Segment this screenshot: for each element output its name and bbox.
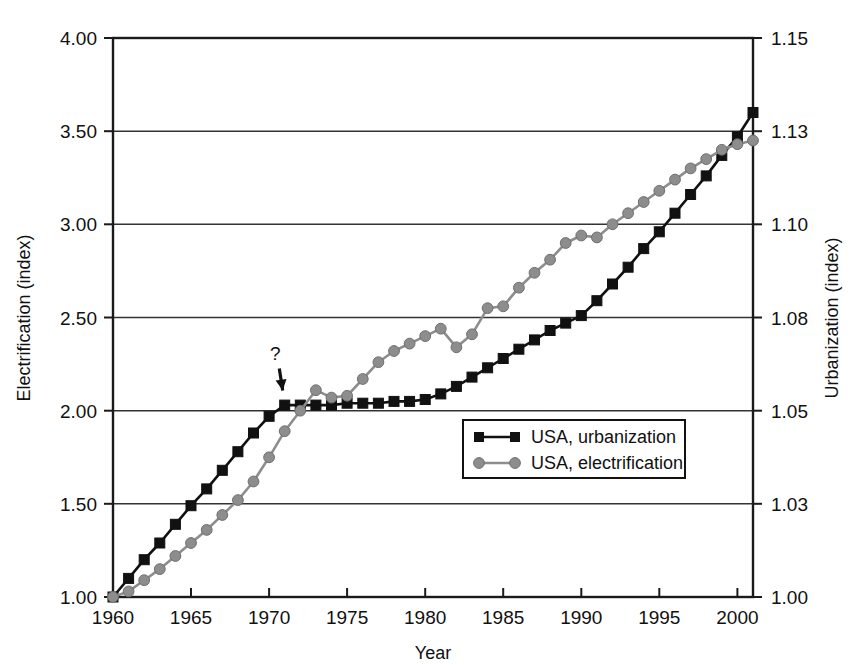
chart-figure: 1960196519701975198019851990199520001.00… [0, 0, 855, 665]
x-tick-label: 1985 [482, 607, 524, 628]
data-point-marker [420, 331, 431, 342]
data-point-marker [357, 374, 368, 385]
annotation-label: ? [270, 343, 281, 364]
data-point-marker [154, 564, 165, 575]
data-point-marker [607, 219, 618, 230]
y-tick-label: 3.00 [60, 214, 97, 235]
data-point-marker [139, 555, 149, 565]
data-point-marker [436, 389, 446, 399]
y2-tick-label: 1.13 [771, 121, 808, 142]
data-point-marker [155, 538, 165, 548]
data-point-marker [311, 400, 321, 410]
data-point-marker [498, 301, 509, 312]
legend-item-label: USA, urbanization [531, 427, 676, 447]
y2-tick-label: 1.03 [771, 494, 808, 515]
data-point-marker [420, 395, 430, 405]
data-point-marker [701, 154, 712, 165]
x-tick-label: 1980 [404, 607, 446, 628]
y-axis-left: 1.001.502.002.503.003.504.00 [60, 28, 113, 608]
data-point-marker [389, 346, 400, 357]
y2-tick-label: 1.15 [771, 28, 808, 49]
data-point-marker [342, 390, 353, 401]
x-tick-label: 1960 [92, 607, 134, 628]
data-point-marker [514, 344, 524, 354]
data-point-marker [451, 342, 462, 353]
data-point-marker [638, 197, 649, 208]
data-point-marker [654, 227, 664, 237]
legend-item-label: USA, electrification [531, 453, 683, 473]
data-point-marker [123, 586, 134, 597]
data-point-marker [483, 363, 493, 373]
data-point-marker [592, 232, 603, 243]
data-point-marker [202, 484, 212, 494]
line-chart: 1960196519701975198019851990199520001.00… [0, 0, 855, 665]
data-point-marker [373, 357, 384, 368]
y2-tick-label: 1.05 [771, 401, 808, 422]
y2-axis-title: Urbanization (index) [822, 237, 842, 398]
x-axis-title: Year [415, 643, 451, 663]
data-point-marker [514, 282, 525, 293]
data-point-marker [451, 381, 461, 391]
data-point-marker [654, 185, 665, 196]
data-point-marker [217, 510, 228, 521]
data-point-marker [716, 144, 727, 155]
data-point-marker [201, 525, 212, 536]
x-tick-label: 1965 [170, 607, 212, 628]
data-point-marker [529, 267, 540, 278]
data-point-marker [248, 476, 259, 487]
y-axis-title: Electrification (index) [14, 234, 34, 401]
data-point-marker [748, 108, 758, 118]
data-point-marker [701, 171, 711, 181]
legend-swatch-marker [474, 458, 485, 469]
data-point-marker [249, 428, 259, 438]
data-point-marker [670, 174, 681, 185]
x-tick-label: 1975 [326, 607, 368, 628]
x-tick-label: 1970 [248, 607, 290, 628]
legend-swatch-marker [474, 432, 484, 442]
data-point-marker [561, 318, 571, 328]
data-point-marker [467, 329, 478, 340]
data-point-marker [264, 452, 275, 463]
data-point-marker [108, 592, 119, 603]
data-point-marker [482, 303, 493, 314]
data-point-marker [623, 208, 634, 219]
y-tick-label: 1.00 [60, 587, 97, 608]
data-point-marker [280, 400, 290, 410]
data-point-marker [124, 573, 134, 583]
data-point-marker [592, 296, 602, 306]
y-tick-label: 2.50 [60, 308, 97, 329]
data-point-marker [295, 405, 306, 416]
data-point-marker [170, 519, 180, 529]
x-tick-label: 1995 [638, 607, 680, 628]
legend-swatch-marker [510, 432, 520, 442]
legend: USA, urbanizationUSA, electrification [463, 420, 685, 478]
data-point-marker [545, 326, 555, 336]
x-axis: 196019651970197519801985199019952000 [92, 588, 759, 628]
y-tick-label: 2.00 [60, 401, 97, 422]
data-point-marker [576, 230, 587, 241]
data-point-marker [498, 354, 508, 364]
data-point-marker [545, 254, 556, 265]
data-point-marker [326, 392, 337, 403]
x-tick-label: 1990 [560, 607, 602, 628]
y-tick-label: 3.50 [60, 121, 97, 142]
data-point-marker [233, 495, 244, 506]
data-point-marker [358, 398, 368, 408]
y2-tick-label: 1.08 [771, 308, 808, 329]
data-point-marker [139, 575, 150, 586]
data-point-marker [435, 323, 446, 334]
data-point-marker [373, 398, 383, 408]
data-point-marker [389, 396, 399, 406]
legend-swatch-marker [510, 458, 521, 469]
annotation-question-mark: ? [270, 343, 286, 390]
data-point-marker [560, 238, 571, 249]
data-point-marker [404, 338, 415, 349]
data-point-marker [279, 426, 290, 437]
data-point-marker [608, 279, 618, 289]
data-point-marker [467, 372, 477, 382]
data-point-marker [217, 465, 227, 475]
data-point-marker [639, 244, 649, 254]
data-point-marker [623, 262, 633, 272]
data-point-marker [748, 135, 759, 146]
series-electrification [108, 135, 759, 602]
